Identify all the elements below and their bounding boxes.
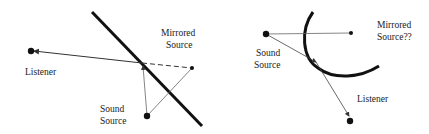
right-diagram-curved-mirror: Sound Source Mirrored Source?? Listener <box>254 12 412 124</box>
mirrored-source-dot <box>190 66 194 70</box>
sound-source-label-line2: Source <box>254 60 280 70</box>
sound-source-label-line2: Source <box>100 116 126 126</box>
sound-source-dot <box>263 31 269 37</box>
source-to-mirrored-line <box>266 33 351 34</box>
listener-label: Listener <box>357 94 389 104</box>
mirrored-source-label-line1: Mirrored <box>161 28 196 38</box>
virtual-path-dashed <box>142 63 192 68</box>
source-to-reflection-path <box>143 66 147 116</box>
sound-source-label-line1: Sound <box>100 104 125 114</box>
listener-dot <box>28 48 34 54</box>
diagram-canvas: Listener Mirrored Source Sound Source So… <box>0 0 429 134</box>
reflection-to-listener-path <box>34 51 142 63</box>
listener-dot <box>347 118 353 124</box>
listener-label: Listener <box>25 67 57 77</box>
curved-reflector-arc <box>304 12 379 76</box>
mirrored-source-label-line2: Source?? <box>377 32 412 42</box>
reflection-to-listener-path <box>316 62 349 116</box>
sound-source-dot <box>144 113 150 119</box>
mirrored-source-label-line2: Source <box>166 40 192 50</box>
sound-source-label-line1: Sound <box>256 48 281 58</box>
mirrored-source-dot <box>349 31 353 35</box>
mirrored-source-label-line1: Mirrored <box>377 20 412 30</box>
left-diagram-flat-mirror: Listener Mirrored Source Sound Source <box>25 12 202 126</box>
